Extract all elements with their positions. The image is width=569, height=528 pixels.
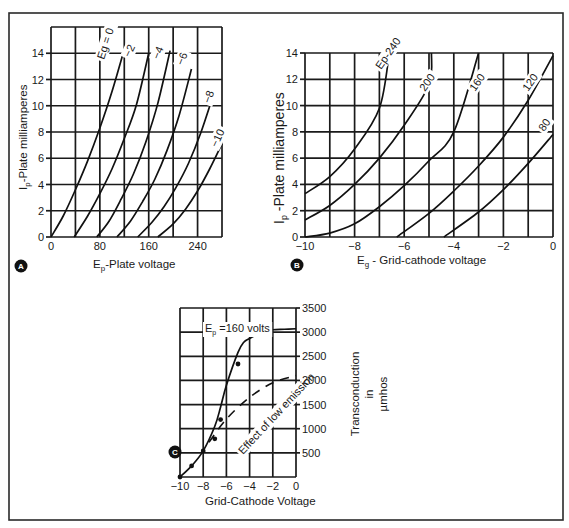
x-tick-label: −4 <box>448 240 461 252</box>
data-point-marker <box>178 475 183 480</box>
x-tick-label: −8 <box>348 240 361 252</box>
x-tick-label: 0 <box>48 240 54 252</box>
y-tick-label: 3000 <box>302 326 326 338</box>
data-point-marker <box>218 417 223 422</box>
svg-text:in: in <box>363 390 375 399</box>
x-tick-label: 160 <box>140 240 158 252</box>
curve--6 <box>117 69 192 237</box>
curve-200 <box>305 53 432 220</box>
badge-c: C <box>169 446 182 459</box>
y-tick-label: 500 <box>302 447 320 459</box>
x-tick-label: 0 <box>550 240 556 252</box>
y-tick-label: 6 <box>38 152 44 164</box>
curve-label: Eg = 0 <box>94 18 120 63</box>
x-tick-label: 240 <box>188 240 206 252</box>
curve-label: 160 <box>466 69 490 96</box>
y-tick-label: 2000 <box>302 374 326 386</box>
svg-text:Eg = 0: Eg = 0 <box>94 26 115 60</box>
svg-text:Transconduction: Transconduction <box>349 352 361 437</box>
y-tick-label: 10 <box>286 100 298 112</box>
x-tick-label: −2 <box>497 240 510 252</box>
chart-b-grid-voltage: Ep-24020016012080 02468101214 −10−8−6−4−… <box>271 31 556 272</box>
data-point-marker <box>189 463 194 468</box>
curve-ep-240 <box>305 53 389 194</box>
curve-label: −8 <box>200 86 218 106</box>
chart-c-x-ticks: −10−8−6−4−20 <box>171 480 299 492</box>
y-tick-label: 6 <box>292 152 298 164</box>
x-tick-label: −10 <box>296 240 315 252</box>
y-tick-label: 2 <box>38 205 44 217</box>
chart-a-grid <box>51 27 222 237</box>
chart-a-y-axis-label: Ip-Plate milliamperes <box>17 84 32 190</box>
svg-text:C: C <box>172 448 178 457</box>
chart-b-x-ticks: −10−8−6−4−20 <box>296 240 556 252</box>
y-tick-label: 1000 <box>302 423 326 435</box>
chart-b-curves: Ep-24020016012080 <box>305 31 555 237</box>
curve-label: Ep-240 <box>372 31 407 74</box>
y-tick-label: 12 <box>32 74 44 86</box>
chart-a-plate-voltage: Eg = 0−2−4−6−8−10 02468101214 080160240 … <box>15 18 229 273</box>
x-tick-label: −6 <box>398 240 411 252</box>
y-tick-label: 14 <box>32 47 44 59</box>
curve--4 <box>97 51 170 237</box>
curve-label: 200 <box>416 69 440 96</box>
curve-label: −2 <box>120 40 139 61</box>
chart-c-transconduction: Effect of low emission 50010001500200025… <box>169 302 390 507</box>
x-tick-label: 0 <box>293 480 299 492</box>
figure: Eg = 0−2−4−6−8−10 02468101214 080160240 … <box>0 0 569 528</box>
chart-b-y-axis-label: Ip -Plate milliamperes <box>271 92 289 224</box>
curve-160 <box>305 53 479 237</box>
y-tick-label: 3500 <box>302 302 326 314</box>
curve-label: −10 <box>207 124 229 151</box>
chart-a-y-ticks: 02468101214 <box>32 47 51 243</box>
x-tick-label: −6 <box>220 480 233 492</box>
badge-a: A <box>15 260 28 273</box>
data-point-marker <box>236 362 241 367</box>
y-tick-label: 1500 <box>302 399 326 411</box>
chart-a-curves: Eg = 0−2−4−6−8−10 <box>51 18 229 237</box>
chart-b-x-axis-label: Eg - Grid-cathode voltage <box>357 254 486 269</box>
svg-text:A: A <box>18 262 24 271</box>
y-tick-label: 2500 <box>302 350 326 362</box>
y-tick-label: 4 <box>292 178 298 190</box>
svg-text:µmhos: µmhos <box>377 376 389 411</box>
curve-label: −6 <box>173 48 191 69</box>
chart-c-x-axis-label: Grid-Cathode Voltage <box>205 495 316 507</box>
chart-a-x-axis-label: Ep-Plate voltage <box>93 258 175 273</box>
badge-b: B <box>291 259 304 272</box>
y-tick-label: 4 <box>38 179 44 191</box>
chart-a-x-ticks: 080160240 <box>48 240 207 252</box>
data-point-marker <box>201 449 206 454</box>
y-tick-label: 14 <box>286 47 298 59</box>
y-tick-label: 8 <box>38 126 44 138</box>
curve-eg-0 <box>51 49 124 237</box>
x-tick-label: −8 <box>197 480 210 492</box>
svg-text:B: B <box>294 261 300 270</box>
x-tick-label: −10 <box>171 480 190 492</box>
y-tick-label: 12 <box>286 73 298 85</box>
y-tick-label: 0 <box>38 231 44 243</box>
chart-b-y-ticks: 02468101214 <box>286 47 305 243</box>
y-tick-label: 10 <box>32 100 44 112</box>
x-tick-label: 80 <box>94 240 106 252</box>
y-tick-label: 2 <box>292 205 298 217</box>
x-tick-label: −4 <box>243 480 256 492</box>
chart-c-y-axis-label: Transconduction in µmhos <box>349 352 389 437</box>
curve-label: −4 <box>149 42 167 63</box>
y-tick-label: 8 <box>292 126 298 138</box>
x-tick-label: −2 <box>267 480 280 492</box>
